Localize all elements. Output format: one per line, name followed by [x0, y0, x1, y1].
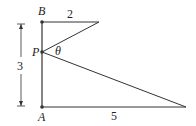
label-b: B [38, 4, 46, 18]
lower-diagonal [42, 52, 186, 107]
label-p: P [31, 45, 40, 59]
point-b [40, 20, 44, 24]
point-p [40, 50, 44, 54]
arrowhead-down-icon [19, 101, 23, 106]
point-a [40, 105, 44, 109]
arrowhead-up-icon [19, 24, 23, 29]
length-bottom-label: 5 [111, 109, 117, 123]
angle-theta-label: θ [55, 44, 61, 58]
length-height-label: 3 [17, 59, 23, 73]
diagram: B P A θ 2 5 3 [0, 0, 196, 126]
label-a: A [37, 110, 46, 124]
length-top-label: 2 [67, 7, 73, 21]
upper-diagonal [42, 22, 99, 52]
